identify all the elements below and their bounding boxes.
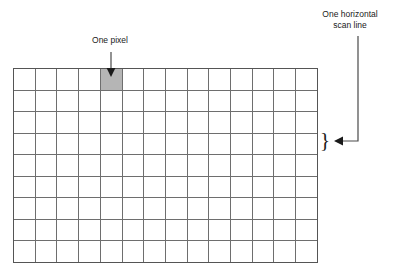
pixel-cell: [144, 90, 166, 112]
pixel-cell: [231, 90, 253, 112]
pixel-cell: [274, 69, 296, 91]
pixel-cell: [187, 219, 209, 241]
scan-line-label: One horizontal scan line: [308, 9, 392, 31]
pixel-cell: [35, 241, 57, 263]
pixel-cell: [144, 198, 166, 220]
pixel-cell: [122, 198, 144, 220]
pixel-cell: [231, 241, 253, 263]
pixel-grid: [13, 68, 318, 263]
pixel-cell: [231, 176, 253, 198]
pixel-cell: [209, 90, 231, 112]
pixel-cell: [144, 133, 166, 155]
pixel-cell: [274, 90, 296, 112]
pixel-cell: [14, 69, 36, 91]
pixel-cell: [14, 176, 36, 198]
pixel-cell: [296, 198, 318, 220]
pixel-cell: [252, 155, 274, 177]
pixel-cell: [274, 241, 296, 263]
pixel-cell: [165, 133, 187, 155]
pixel-cell: [209, 155, 231, 177]
pixel-cell: [296, 155, 318, 177]
pixel-cell: [79, 219, 101, 241]
pixel-cell: [296, 219, 318, 241]
pixel-cell: [231, 112, 253, 134]
pixel-cell: [231, 219, 253, 241]
pixel-cell: [274, 219, 296, 241]
pixel-cell: [252, 90, 274, 112]
pixel-cell: [79, 198, 101, 220]
pixel-cell: [187, 133, 209, 155]
pixel-cell: [79, 176, 101, 198]
pixel-cell: [296, 241, 318, 263]
pixel-cell: [209, 69, 231, 91]
pixel-cell: [274, 176, 296, 198]
pixel-cell: [14, 155, 36, 177]
pixel-grid-row: [14, 219, 318, 241]
pixel-cell: [57, 112, 79, 134]
pixel-cell: [209, 241, 231, 263]
pixel-cell: [274, 112, 296, 134]
pixel-cell: [187, 155, 209, 177]
pixel-cell: [79, 155, 101, 177]
pixel-grid-row: [14, 198, 318, 220]
pixel-grid-row: [14, 90, 318, 112]
pixel-cell: [165, 69, 187, 91]
pixel-cell: [209, 198, 231, 220]
pixel-cell: [209, 112, 231, 134]
pixel-cell: [144, 219, 166, 241]
pixel-cell: [122, 155, 144, 177]
pixel-cell: [187, 176, 209, 198]
pixel-cell: [57, 69, 79, 91]
pixel-cell: [100, 90, 122, 112]
pixel-cell: [100, 241, 122, 263]
pixel-cell: [79, 90, 101, 112]
pixel-cell: [35, 155, 57, 177]
pixel-cell: [122, 112, 144, 134]
pixel-cell: [14, 90, 36, 112]
pixel-cell: [14, 133, 36, 155]
pixel-cell: [231, 133, 253, 155]
pixel-grid-row: [14, 155, 318, 177]
pixel-grid-row: [14, 176, 318, 198]
pixel-cell: [144, 241, 166, 263]
pixel-cell: [14, 219, 36, 241]
pixel-cell: [187, 241, 209, 263]
pixel-cell: [35, 90, 57, 112]
pixel-cell: [35, 133, 57, 155]
pixel-cell: [100, 133, 122, 155]
pixel-cell: [165, 176, 187, 198]
pixel-cell: [187, 112, 209, 134]
pixel-cell: [165, 155, 187, 177]
pixel-cell: [296, 90, 318, 112]
pixel-cell: [209, 133, 231, 155]
pixel-cell: [122, 90, 144, 112]
pixel-cell: [252, 112, 274, 134]
pixel-cell: [144, 155, 166, 177]
pixel-grid-table: [13, 68, 318, 263]
pixel-cell: [57, 198, 79, 220]
pixel-cell: [231, 69, 253, 91]
one-pixel-label: One pixel: [78, 35, 142, 46]
pixel-cell: [231, 198, 253, 220]
pixel-cell: [252, 176, 274, 198]
pixel-grid-row: [14, 133, 318, 155]
pixel-cell: [252, 69, 274, 91]
pixel-cell: [296, 112, 318, 134]
pixel-cell: [35, 219, 57, 241]
pixel-grid-body: [14, 69, 318, 263]
highlighted-pixel-cell: [100, 69, 122, 91]
pixel-cell: [122, 133, 144, 155]
pixel-cell: [79, 133, 101, 155]
pixel-cell: [165, 90, 187, 112]
pixel-cell: [14, 241, 36, 263]
pixel-cell: [57, 90, 79, 112]
pixel-cell: [79, 112, 101, 134]
pixel-grid-row: [14, 112, 318, 134]
pixel-cell: [252, 241, 274, 263]
pixel-cell: [187, 69, 209, 91]
pixel-cell: [100, 198, 122, 220]
pixel-cell: [296, 133, 318, 155]
pixel-cell: [35, 176, 57, 198]
pixel-cell: [100, 155, 122, 177]
pixel-cell: [79, 69, 101, 91]
